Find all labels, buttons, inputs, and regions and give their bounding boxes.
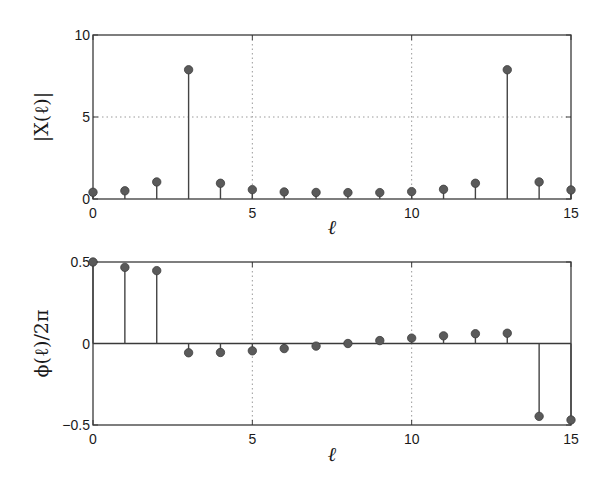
stem-marker xyxy=(376,188,384,196)
x-tick-label: 15 xyxy=(563,205,579,221)
stem-marker xyxy=(344,339,352,347)
stem-marker xyxy=(153,178,161,186)
stem-marker xyxy=(567,186,575,194)
stem-marker xyxy=(216,179,224,187)
stem-marker xyxy=(439,332,447,340)
stem-marker xyxy=(184,349,192,357)
x-tick-label: 5 xyxy=(248,205,256,221)
stem-marker xyxy=(280,188,288,196)
stem-marker xyxy=(121,263,129,271)
stem-marker xyxy=(121,187,129,195)
stem-marker xyxy=(567,416,575,424)
stem-marker xyxy=(407,334,415,342)
stem-marker xyxy=(503,66,511,74)
y-tick-label: 10 xyxy=(74,27,90,43)
stem-marker xyxy=(312,342,320,350)
figure: 0510150510ℓ|X(ℓ)| 051015−0.500.5ℓϕ(ℓ)/2π xyxy=(0,0,605,478)
stem-marker xyxy=(439,185,447,193)
stem-marker xyxy=(471,330,479,338)
stem-marker xyxy=(248,347,256,355)
stem-marker xyxy=(535,178,543,186)
x-axis-label: ℓ xyxy=(328,215,337,239)
stem-marker xyxy=(184,66,192,74)
y-tick-label: −0.5 xyxy=(62,417,90,433)
y-axis-label: ϕ(ℓ)/2π xyxy=(30,310,52,378)
grid xyxy=(93,35,571,199)
ticks: 051015−0.500.5 xyxy=(62,254,579,447)
stem-marker xyxy=(280,344,288,352)
stem-series xyxy=(89,66,575,199)
y-tick-label: 0 xyxy=(82,336,90,352)
y-tick-label: 0.5 xyxy=(71,254,91,270)
magnitude-plot: 0510150510ℓ|X(ℓ)| xyxy=(30,27,579,239)
stem-marker xyxy=(216,348,224,356)
x-tick-label: 10 xyxy=(404,205,420,221)
stem-marker xyxy=(344,188,352,196)
phase-plot: 051015−0.500.5ℓϕ(ℓ)/2π xyxy=(30,254,579,466)
stem-series xyxy=(89,258,575,424)
stem-marker xyxy=(153,266,161,274)
stem-marker xyxy=(407,187,415,195)
chart-canvas: 0510150510ℓ|X(ℓ)| 051015−0.500.5ℓϕ(ℓ)/2π xyxy=(0,0,605,478)
stem-marker xyxy=(89,188,97,196)
stem-marker xyxy=(471,179,479,187)
y-axis-label: |X(ℓ)| xyxy=(30,92,53,142)
stem-marker xyxy=(312,188,320,196)
stem-marker xyxy=(89,258,97,266)
x-tick-label: 15 xyxy=(563,431,579,447)
x-tick-label: 0 xyxy=(89,431,97,447)
stem-marker xyxy=(376,336,384,344)
x-tick-label: 0 xyxy=(89,205,97,221)
x-tick-label: 10 xyxy=(404,431,420,447)
x-tick-label: 5 xyxy=(248,431,256,447)
ticks: 0510150510 xyxy=(74,27,579,221)
y-tick-label: 5 xyxy=(82,109,90,125)
stem-marker xyxy=(503,329,511,337)
stem-marker xyxy=(248,185,256,193)
stem-marker xyxy=(535,412,543,420)
x-axis-label: ℓ xyxy=(328,442,337,466)
